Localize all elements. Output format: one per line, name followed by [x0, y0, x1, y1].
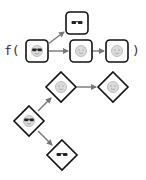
box-input: [26, 40, 48, 62]
arrow-input-to-glasses: [48, 32, 64, 44]
box-smiley-2: [106, 40, 128, 62]
plain-smiley-icon: [112, 46, 123, 57]
smiley-with-sunglasses-icon: [32, 46, 43, 57]
smiley-with-sunglasses-icon: [24, 116, 35, 127]
function-call-diagram: f( ): [4, 12, 140, 62]
arrow-root-to-smiley1: [38, 98, 51, 111]
plain-smiley-icon: [76, 46, 87, 57]
call-open-paren: f(: [4, 43, 20, 58]
box-glasses-out: [66, 12, 88, 34]
diamond-root: [14, 106, 44, 136]
diamond-branch-smiley-2: [98, 72, 128, 102]
box-smiley-1: [70, 40, 92, 62]
diagram-canvas: f( ): [0, 0, 146, 180]
plain-smiley-icon: [56, 82, 67, 93]
diamond-branch-smiley-1: [46, 72, 76, 102]
plain-smiley-icon: [108, 82, 119, 93]
call-close-paren: ): [132, 43, 140, 58]
tree-diagram: [14, 72, 128, 170]
arrow-root-to-glasses: [38, 131, 52, 145]
